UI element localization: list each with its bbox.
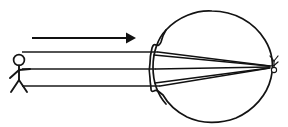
image-head bbox=[271, 67, 276, 72]
person-arm-left bbox=[10, 70, 19, 78]
inverted-retinal-image bbox=[269, 56, 278, 73]
refracted-rays bbox=[154, 52, 270, 86]
optics-eye-diagram: Light rays from a standing person travel… bbox=[0, 0, 288, 127]
refracted-ray-top-edge bbox=[154, 55, 269, 66]
image-arm-right bbox=[269, 66, 274, 67]
refracted-ray-middle bbox=[156, 67, 270, 69]
light-travel-arrow bbox=[32, 33, 136, 44]
incident-rays bbox=[22, 52, 160, 86]
diagram-canvas bbox=[0, 0, 288, 127]
person-arm-right bbox=[19, 69, 30, 70]
person-head bbox=[14, 55, 25, 66]
arrow-head-icon bbox=[126, 33, 136, 44]
person-leg-left bbox=[11, 80, 19, 92]
image-leg-left bbox=[274, 56, 278, 61]
refracted-ray-bottom-edge bbox=[155, 68, 269, 83]
